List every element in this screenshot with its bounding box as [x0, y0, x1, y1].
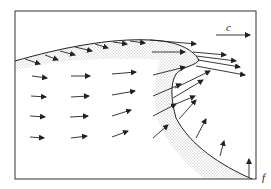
- velocity-label: c: [226, 21, 231, 33]
- stippled-layer: [15, 40, 252, 179]
- diagram-root: c f: [0, 0, 271, 189]
- frame-border: [15, 11, 256, 179]
- front-label: f: [262, 171, 267, 183]
- flow-diagram: c f: [0, 0, 271, 189]
